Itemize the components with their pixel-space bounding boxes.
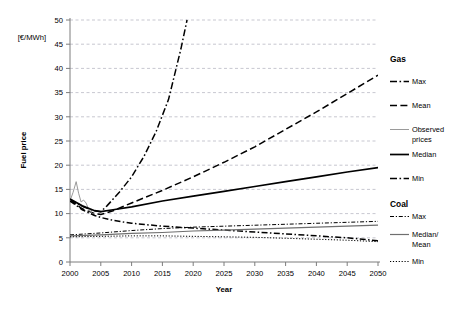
x-axis-title: Year <box>216 285 232 294</box>
y-axis-tick-label: 30 <box>55 113 63 122</box>
x-axis-tick-label: 2005 <box>92 269 109 278</box>
x-axis-tick-label: 2045 <box>339 269 356 278</box>
x-axis-tick-label: 2000 <box>62 269 79 278</box>
legend-label: Max <box>412 212 426 221</box>
y-axis-title: Fuel price <box>19 131 28 168</box>
series-line <box>70 225 378 236</box>
legend-group-heading: Gas <box>390 54 406 64</box>
series-line <box>70 20 187 212</box>
y-axis-tick-label: 35 <box>55 88 63 97</box>
series-line <box>70 221 378 235</box>
legend-label-cont: prices <box>412 135 432 144</box>
x-axis-tick-label: 2010 <box>123 269 140 278</box>
legend-label: Mean <box>412 101 431 110</box>
x-axis-tick-label: 2035 <box>277 269 294 278</box>
series-line <box>70 75 378 214</box>
legend-label: Max <box>412 77 426 86</box>
legend-label: Min <box>412 257 424 266</box>
chart-canvas: 0510152025303540455020002005201020152020… <box>0 0 475 313</box>
y-axis-tick-label: 50 <box>55 16 63 25</box>
y-axis-tick-label: 15 <box>55 185 63 194</box>
legend-label: Median <box>412 150 436 159</box>
y-axis-tick-label: 45 <box>55 40 63 49</box>
y-axis-tick-label: 20 <box>55 161 63 170</box>
y-axis-tick-label: 40 <box>55 64 63 73</box>
legend-label: Observed <box>412 125 444 134</box>
legend-label: Min <box>412 174 424 183</box>
y-axis-units-label: [€/MWh] <box>18 33 46 42</box>
y-axis-tick-label: 0 <box>59 258 63 267</box>
x-axis-tick-label: 2025 <box>216 269 233 278</box>
legend-label: Median/ <box>412 230 439 239</box>
x-axis-tick-label: 2030 <box>246 269 263 278</box>
fuel-price-chart: 0510152025303540455020002005201020152020… <box>0 0 475 313</box>
x-axis-tick-label: 2020 <box>185 269 202 278</box>
y-axis-tick-label: 10 <box>55 209 63 218</box>
legend-group-heading: Coal <box>390 199 408 209</box>
y-axis-tick-label: 5 <box>59 234 63 243</box>
x-axis-tick-label: 2050 <box>370 269 387 278</box>
x-axis-tick-label: 2040 <box>308 269 325 278</box>
legend-label-cont: Mean <box>412 240 431 249</box>
x-axis-tick-label: 2015 <box>154 269 171 278</box>
y-axis-tick-label: 25 <box>55 137 63 146</box>
